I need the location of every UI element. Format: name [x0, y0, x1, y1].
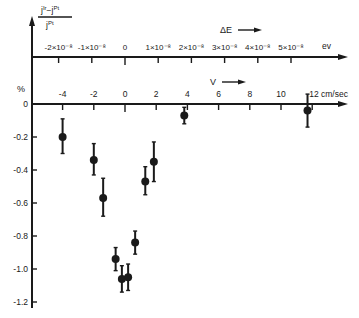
y-label-numerator: jIr−jPt [40, 5, 59, 15]
marker-dot [304, 107, 312, 115]
plot-area: jIr−jPt jPt % ΔE ev -2×10⁻⁸-1×10⁻⁸01×10⁻… [0, 0, 359, 318]
bottom-axis-direction-arrow-icon [238, 80, 246, 85]
top-tick-label: -2×10⁻⁸ [45, 43, 73, 52]
marker-dot [180, 112, 188, 120]
data-point [141, 167, 149, 195]
bottom-tick-label: 4 [185, 89, 190, 99]
y-tick-label: 0 [23, 99, 28, 109]
marker-dot [59, 133, 67, 141]
bottom-tick-label: 8 [247, 89, 252, 99]
y-tick-label: -0.2 [13, 132, 28, 142]
top-tick-label: 2×10⁻⁸ [179, 43, 204, 52]
marker-dot [112, 255, 120, 263]
data-point [90, 144, 98, 175]
bottom-tick-label: 12 cm/sec [309, 89, 348, 99]
y-axis-arrow-icon [29, 16, 35, 26]
marker-dot [150, 158, 158, 166]
marker-dot [141, 178, 149, 186]
bottom-tick-label: -4 [59, 89, 67, 99]
data-points [59, 94, 312, 292]
top-axis-label: ΔE [220, 25, 232, 35]
y-tick-label: -1.0 [13, 264, 28, 274]
top-axis-direction-arrow-icon [254, 28, 262, 33]
y-tick-label: -1.2 [13, 297, 28, 307]
y-axis-ticks: 0-0.2-0.4-0.6-0.8-1.0-1.2 [13, 99, 37, 307]
bottom-tick-label: 6 [216, 89, 221, 99]
y-unit-label: % [17, 84, 25, 94]
marker-dot [124, 273, 132, 281]
top-tick-label: 0 [123, 43, 128, 52]
top-axis-ticks: -2×10⁻⁸-1×10⁻⁸01×10⁻⁸2×10⁻⁸3×10⁻⁸4×10⁻⁸5… [45, 43, 304, 65]
top-tick-label: 5×10⁻⁸ [278, 43, 303, 52]
y-label-denominator: jPt [45, 20, 54, 30]
bottom-tick-label: 0 [123, 89, 128, 99]
data-point [99, 178, 107, 216]
bottom-tick-label: 10 [276, 89, 286, 99]
top-tick-label: -1×10⁻⁸ [78, 43, 106, 52]
top-tick-label: 3×10⁻⁸ [212, 43, 237, 52]
bottom-tick-label: 2 [154, 89, 159, 99]
bottom-axis-arrow-icon [338, 101, 348, 107]
data-point [150, 142, 158, 182]
y-tick-label: -0.4 [13, 165, 28, 175]
top-axis-unit: ev [322, 41, 332, 51]
data-point [112, 248, 120, 271]
bottom-tick-label: -2 [90, 89, 98, 99]
data-point [131, 231, 139, 254]
y-tick-label: -0.6 [13, 198, 28, 208]
top-tick-label: 4×10⁻⁸ [245, 43, 270, 52]
data-point [304, 94, 312, 127]
top-tick-label: 1×10⁻⁸ [145, 43, 170, 52]
chart: jIr−jPt jPt % ΔE ev -2×10⁻⁸-1×10⁻⁸01×10⁻… [0, 0, 359, 318]
bottom-axis-label: V [210, 77, 216, 87]
marker-dot [131, 239, 139, 247]
data-point [59, 119, 67, 154]
marker-dot [99, 194, 107, 202]
y-tick-label: -0.8 [13, 231, 28, 241]
top-axis-arrow-icon [338, 54, 348, 60]
marker-dot [90, 156, 98, 164]
data-point [124, 264, 132, 290]
